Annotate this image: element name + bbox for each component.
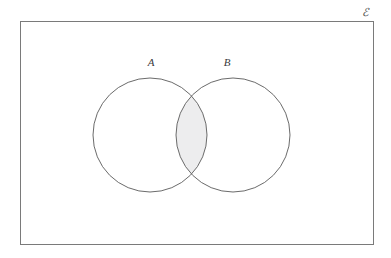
set-a-label: A: [147, 56, 155, 68]
venn-diagram-figure: A B ℰ: [0, 0, 391, 258]
universal-set-symbol: ℰ: [362, 6, 370, 18]
set-b-label: B: [224, 56, 231, 68]
venn-diagram-canvas: A B ℰ: [0, 0, 391, 258]
